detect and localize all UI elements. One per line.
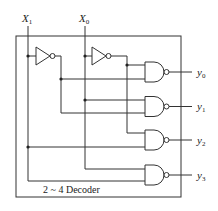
decoder-diagram: X1 X0	[0, 0, 218, 211]
output-label-y2: y2	[196, 134, 206, 148]
inverter-x1	[36, 47, 55, 65]
output-label-y3: y3	[196, 169, 206, 183]
nand-gate-y1	[145, 97, 192, 117]
output-label-y0: y0	[196, 66, 206, 80]
input-label-x0: X0	[78, 12, 90, 26]
wire-x0-not	[111, 56, 145, 133]
input-label-x1: X1	[21, 12, 33, 26]
decoder-caption: 2 ~ 4 Decoder	[43, 184, 100, 195]
nand-gate-y3	[145, 165, 192, 185]
output-label-y1: y1	[196, 100, 206, 114]
nand-gate-y0	[145, 62, 192, 82]
inverter-x0	[92, 47, 111, 65]
nand-gate-y2	[145, 130, 192, 150]
